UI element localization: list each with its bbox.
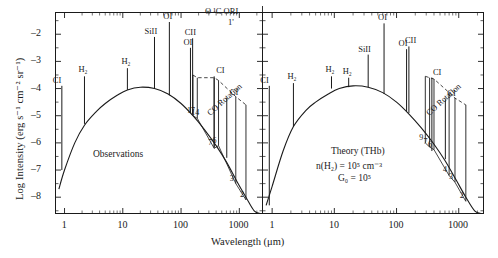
emission-label-p1-4: SiII: [358, 44, 371, 54]
source-name: Θ ¹C ORI: [205, 6, 238, 16]
x-tick-label-p0-2: 100: [173, 219, 188, 230]
panel-subtitle-density-text: n(H₂) = 10⁵ cm⁻³: [316, 161, 382, 171]
panel-frame-theory-thb-: [263, 13, 484, 214]
panel-title-theory-text: Theory (THb): [331, 146, 385, 156]
plot-svg: [0, 0, 498, 258]
emission-label-p1-1: H₂: [287, 71, 296, 81]
x-axis-title-text: Wavelength (μm): [211, 236, 284, 247]
panel-title-observations: Observations: [93, 149, 143, 159]
continuum-curve-observations: [59, 87, 261, 213]
emission-label-p0-6: CII: [185, 27, 196, 37]
panel-title-theory: Theory (THb): [331, 146, 385, 156]
emission-label-p0-7: CI: [216, 65, 225, 75]
panel-subtitle-field-text: G₀ = 10⁵: [338, 173, 371, 183]
co-label-p1-J4: 4: [443, 165, 447, 174]
emission-label-p1-5: OI: [378, 12, 387, 22]
y-tick-label-5: –6: [31, 136, 41, 147]
emission-label-p0-0: CI: [53, 75, 62, 85]
aperture-annotation: 1': [228, 17, 234, 27]
y-tick-label-4: –5: [31, 109, 41, 120]
y-tick-label-1: –2: [31, 27, 41, 38]
emission-label-p0-2: H₂: [121, 56, 130, 66]
y-axis-title: Log Intensity (erg s⁻¹ cm⁻² sr⁻¹): [13, 58, 25, 200]
source-annotation: Θ ¹C ORI: [205, 6, 238, 16]
emission-label-p1-3: H₂: [343, 66, 352, 76]
panel-subtitle-density: n(H₂) = 10⁵ cm⁻³: [316, 160, 382, 171]
emission-label-p0-3: SiII: [144, 26, 157, 36]
emission-label-p1-7: CII: [405, 35, 416, 45]
co-label-p0-J14: 14: [191, 108, 199, 117]
emission-label-p1-2: H₂: [325, 64, 334, 74]
emission-label-p0-4: OI: [163, 11, 172, 21]
co-label-p1-J7: 7: [424, 137, 428, 146]
emission-label-p0-8: CI: [230, 87, 239, 97]
y-tick-label-3: –4: [31, 82, 41, 93]
y-axis-title-text: Log Intensity (erg s⁻¹ cm⁻² sr⁻¹): [14, 58, 25, 200]
emission-label-p1-0: CI: [260, 75, 269, 85]
panel-subtitle-field: G₀ = 10⁵: [338, 173, 371, 183]
co-label-p1-J3: 3: [449, 172, 453, 181]
co-label-p0-J6: 6: [213, 136, 217, 145]
y-tick-label-7: –8: [31, 190, 41, 201]
x-tick-label-p1-2: 100: [388, 219, 403, 230]
co-baseline-observations: [193, 116, 246, 200]
x-tick-label-p1-0: 1: [269, 219, 274, 230]
panel-title-observations-text: Observations: [93, 149, 143, 159]
emission-label-p0-1: H₂: [78, 64, 87, 74]
co-label-p1-J6: 6: [428, 140, 432, 149]
y-tick-label-6: –7: [31, 163, 41, 174]
x-tick-label-p0-0: 1: [62, 219, 67, 230]
figure-canvas: Log Intensity (erg s⁻¹ cm⁻² sr⁻¹) Wavele…: [0, 0, 498, 258]
y-tick-label-2: –3: [31, 54, 41, 65]
co-label-p0-J2: 2: [240, 190, 244, 199]
emission-label-p0-5: OI: [183, 37, 192, 47]
x-axis-title: Wavelength (μm): [211, 236, 284, 247]
x-tick-label-p0-3: 1000: [229, 219, 249, 230]
aperture-value: 1': [228, 17, 234, 27]
emission-label-p1-9: CI: [447, 88, 456, 98]
x-tick-label-p1-1: 10: [329, 219, 339, 230]
x-tick-label-p1-3: 1000: [448, 219, 468, 230]
co-label-p1-J2: 2: [460, 191, 464, 200]
co-label-p0-J3: 3: [230, 174, 234, 183]
emission-label-p1-8: CI: [433, 67, 442, 77]
panel-frame-observations: [56, 13, 263, 214]
x-tick-label-p0-1: 10: [117, 219, 127, 230]
